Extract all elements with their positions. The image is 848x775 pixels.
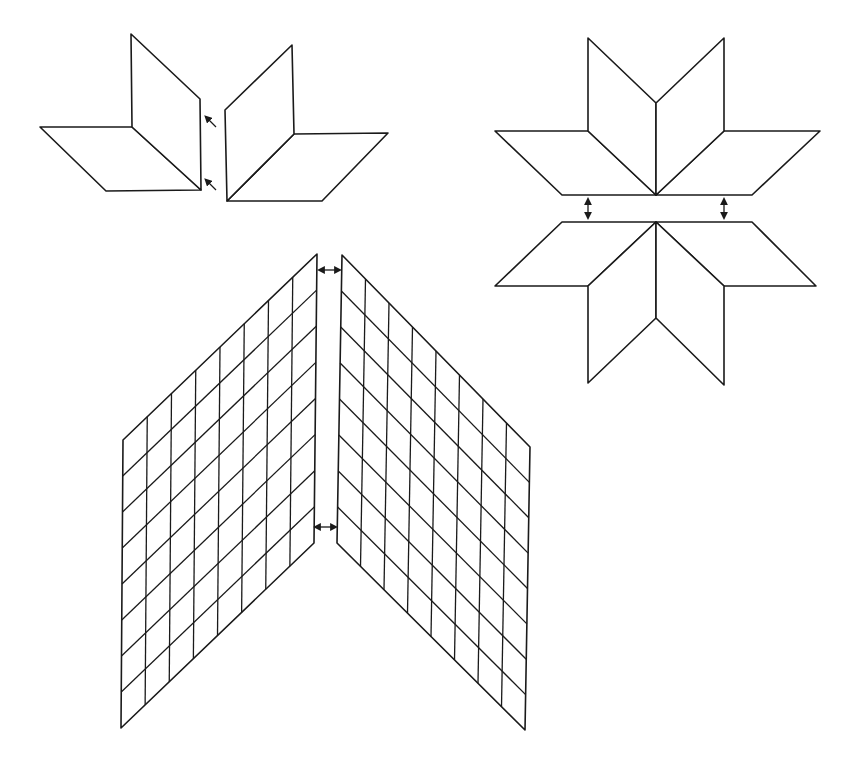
diamond-pairs-panel [40, 34, 388, 201]
right-diamond-grid [337, 255, 530, 730]
join-arrow-upper [207, 118, 216, 127]
join-arrow-lower [207, 181, 216, 190]
strip-grid-panel [121, 254, 530, 730]
left-diamond-grid [121, 254, 317, 728]
diagram-canvas [0, 0, 848, 775]
star-halves-panel [495, 38, 820, 385]
